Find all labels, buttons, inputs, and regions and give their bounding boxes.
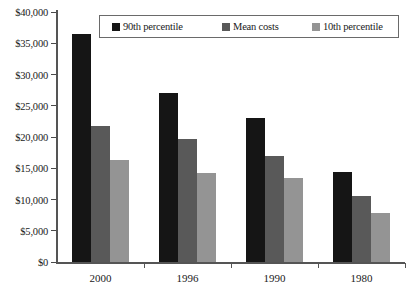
bar [72,34,91,262]
legend-swatch-icon [222,23,230,31]
bar-group [72,12,129,262]
x-axis-tick-label: 2000 [90,272,112,284]
y-axis-tick-label: $5,000 [20,225,48,236]
legend-item[interactable]: 90th percentile [112,21,183,32]
legend-label: 90th percentile [123,21,183,32]
y-axis-tick-label: $40,000 [15,7,48,18]
bar-group [159,12,216,262]
bar [371,213,390,262]
y-axis-tick-label: $25,000 [15,100,48,111]
x-axis-tick-label: 1980 [351,272,373,284]
y-axis: $0$5,000$10,000$15,000$20,000$25,000$30,… [0,0,56,298]
x-axis-tick-label: 1990 [264,272,286,284]
y-axis-tick-label: $0 [38,257,48,268]
bar [110,160,129,262]
bar [352,196,371,262]
bar-group [246,12,303,262]
legend-label: Mean costs [233,21,279,32]
bar [91,126,110,262]
bar-group [333,12,390,262]
y-axis-tick-label: $10,000 [15,194,48,205]
y-axis-tick-label: $15,000 [15,163,48,174]
bar [197,173,216,262]
bar [178,139,197,262]
bar [265,156,284,262]
x-axis-tick-mark [231,263,232,268]
bar [284,178,303,262]
y-axis-tick-label: $30,000 [15,69,48,80]
legend-swatch-icon [112,23,120,31]
x-axis-tick-mark [144,263,145,268]
chart-legend: 90th percentileMean costs10th percentile [99,15,399,38]
legend-item[interactable]: Mean costs [222,21,279,32]
plot-area [57,12,405,262]
x-axis-tick-mark [318,263,319,268]
legend-label: 10th percentile [323,21,383,32]
x-axis-tick-label: 1996 [177,272,199,284]
legend-swatch-icon [312,23,320,31]
bar-chart: $0$5,000$10,000$15,000$20,000$25,000$30,… [0,0,411,298]
bar [159,93,178,262]
legend-item[interactable]: 10th percentile [312,21,383,32]
y-axis-tick-label: $20,000 [15,132,48,143]
y-axis-tick-label: $35,000 [15,38,48,49]
bar [333,172,352,262]
bar [246,118,265,262]
x-axis-tick-mark [405,263,406,268]
